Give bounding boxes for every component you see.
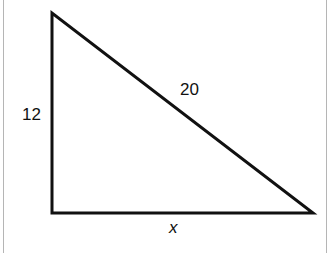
- right-triangle-figure: [0, 0, 329, 253]
- horizontal-leg-label: x: [169, 219, 178, 236]
- vertical-leg-label: 12: [22, 106, 41, 123]
- hypotenuse-label: 20: [180, 81, 199, 98]
- triangle-shape: [52, 13, 313, 213]
